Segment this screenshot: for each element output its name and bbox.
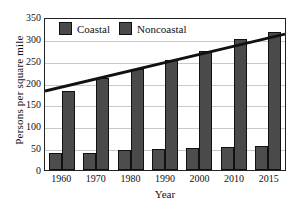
x-tick-label: 2000	[183, 173, 217, 187]
bar-group	[152, 19, 178, 170]
y-tick-label: 200	[7, 79, 41, 89]
bar-group	[83, 19, 109, 170]
bar-group	[186, 19, 212, 170]
y-tick-label: 350	[7, 13, 41, 23]
bar-coastal	[152, 149, 165, 170]
bar-noncoastal	[165, 60, 178, 170]
x-tick-label: 1980	[113, 173, 147, 187]
bar-coastal	[83, 153, 96, 170]
x-axis-tick-labels: 1960197019801990200020102015	[44, 173, 286, 187]
y-tick-label: 50	[7, 144, 41, 154]
bar-group	[118, 19, 144, 170]
y-tick-label: 100	[7, 122, 41, 132]
bar-noncoastal	[131, 69, 144, 170]
x-tick-label: 1970	[79, 173, 113, 187]
bar-noncoastal	[234, 39, 247, 170]
chart-container: Persons per square mile 0501001502002503…	[0, 0, 296, 214]
bar-coastal	[221, 147, 234, 170]
bar-coastal	[255, 146, 268, 170]
y-tick-label: 300	[7, 35, 41, 45]
bar-coastal	[118, 150, 131, 170]
bar-group	[255, 19, 281, 170]
bar-coastal	[49, 153, 62, 170]
x-axis-title: Year	[44, 188, 286, 200]
legend-swatch-coastal	[59, 22, 72, 35]
plot-area	[44, 18, 286, 171]
bar-noncoastal	[96, 78, 109, 170]
bar-group	[49, 19, 75, 170]
chart-legend: Coastal Noncoastal	[56, 21, 189, 36]
bar-noncoastal	[199, 51, 212, 170]
x-tick-label: 2015	[252, 173, 286, 187]
bar-noncoastal	[62, 91, 75, 170]
y-tick-label: 250	[7, 57, 41, 67]
legend-item-noncoastal: Noncoastal	[119, 22, 186, 35]
y-tick-label: 150	[7, 100, 41, 110]
legend-label-coastal: Coastal	[77, 23, 110, 35]
y-tick-label: 0	[7, 166, 41, 176]
bar-group	[221, 19, 247, 170]
bar-noncoastal	[268, 32, 281, 170]
x-tick-label: 2010	[217, 173, 251, 187]
legend-swatch-noncoastal	[119, 22, 132, 35]
legend-item-coastal: Coastal	[59, 22, 110, 35]
legend-label-noncoastal: Noncoastal	[137, 23, 186, 35]
x-tick-label: 1960	[44, 173, 78, 187]
x-tick-label: 1990	[148, 173, 182, 187]
bar-coastal	[186, 148, 199, 170]
bar-groups	[45, 19, 285, 170]
